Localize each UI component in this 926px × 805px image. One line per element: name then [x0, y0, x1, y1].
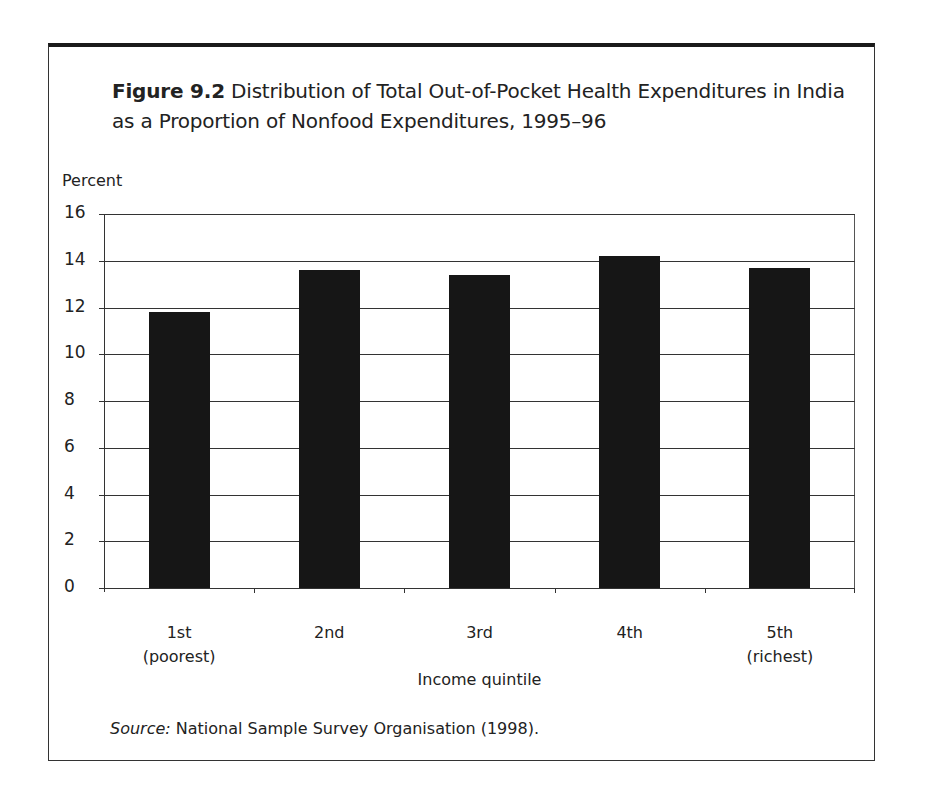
y-tick-label: 4 — [64, 483, 90, 503]
y-tick-label: 6 — [64, 436, 90, 456]
x-tick-label: 1st(poorest) — [104, 621, 254, 669]
bar-2 — [299, 270, 360, 588]
y-tick-mark — [99, 495, 104, 496]
bar-5 — [749, 268, 810, 588]
bar-4 — [599, 256, 660, 588]
x-tick-label: 2nd — [254, 621, 404, 669]
x-tick-mark — [854, 588, 855, 593]
y-tick-label: 16 — [64, 202, 90, 222]
source-note: Source: National Sample Survey Organisat… — [110, 719, 539, 738]
source-text: National Sample Survey Organisation (199… — [176, 719, 539, 738]
x-tick-label: 3rd — [405, 621, 555, 669]
y-tick-mark — [99, 541, 104, 542]
bar-3 — [449, 275, 510, 588]
y-tick-mark — [99, 308, 104, 309]
y-tick-mark — [99, 588, 104, 589]
y-tick-label: 10 — [64, 342, 90, 362]
x-tick-label: 5th(richest) — [705, 621, 855, 669]
x-tick-mark — [254, 588, 255, 593]
y-tick-label: 12 — [64, 296, 90, 316]
y-tick-mark — [99, 401, 104, 402]
x-axis-label: Income quintile — [104, 670, 855, 689]
y-axis-line — [104, 214, 105, 592]
y-tick-mark — [99, 448, 104, 449]
y-tick-mark — [99, 214, 104, 215]
gridline-16 — [104, 214, 855, 215]
y-tick-mark — [99, 261, 104, 262]
gridline-0 — [104, 588, 855, 589]
y-tick-label: 8 — [64, 389, 90, 409]
y-tick-label: 0 — [64, 576, 90, 596]
y-tick-mark — [99, 354, 104, 355]
x-tick-label: 4th — [555, 621, 705, 669]
y-tick-label: 2 — [64, 529, 90, 549]
x-tick-mark — [555, 588, 556, 593]
plot-area — [104, 214, 855, 588]
x-tick-mark — [404, 588, 405, 593]
figure-title: Figure 9.2 Distribution of Total Out-of-… — [112, 76, 872, 136]
y-axis-label: Percent — [62, 171, 122, 190]
gridline-14 — [104, 261, 855, 262]
y-tick-label: 14 — [64, 249, 90, 269]
x-tick-mark — [705, 588, 706, 593]
source-label: Source: — [110, 719, 171, 738]
bar-1 — [149, 312, 210, 588]
figure-number: Figure 9.2 — [112, 79, 225, 103]
